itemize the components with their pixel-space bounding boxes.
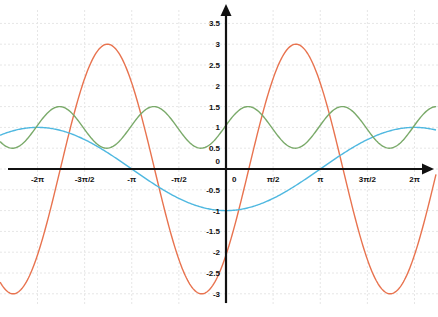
y-tick-labels: 3.532.521.510.50-0.5-1-1.5-2-2.5-3 [206, 19, 220, 298]
x-tick-label: -2π [31, 175, 44, 184]
y-tick-label: 1.5 [209, 103, 221, 112]
x-tick-label: 2π [409, 175, 420, 184]
x-tick-label: -π/2 [171, 175, 187, 184]
axes [8, 4, 434, 303]
y-tick-label: -3 [213, 290, 221, 299]
x-tick-label: π/2 [267, 175, 280, 184]
x-tick-label: -3π/2 [75, 175, 95, 184]
y-axis-arrow-icon [221, 4, 232, 16]
y-tick-label: 0 [216, 157, 221, 166]
y-tick-label: 2.5 [209, 61, 221, 70]
y-tick-label: -1 [213, 207, 221, 216]
x-tick-label: -π [127, 175, 136, 184]
y-tick-label: 3.5 [209, 19, 221, 28]
y-tick-label: -2.5 [206, 269, 220, 278]
y-tick-label: -0.5 [206, 186, 220, 195]
x-axis-arrow-icon [422, 164, 434, 175]
x-tick-label: π [317, 175, 323, 184]
x-tick-label: 0 [232, 175, 237, 184]
y-tick-label: -1.5 [206, 227, 220, 236]
y-tick-label: -2 [213, 248, 221, 257]
x-tick-label: 3π/2 [359, 175, 377, 184]
function-plot: -2π-3π/2-π-π/20π/2π3π/22π 3.532.521.510.… [0, 0, 438, 317]
y-tick-label: 0.5 [209, 144, 221, 153]
y-tick-label: 3 [216, 40, 221, 49]
y-tick-label: 2 [216, 82, 221, 91]
y-tick-label: 1 [216, 123, 221, 132]
